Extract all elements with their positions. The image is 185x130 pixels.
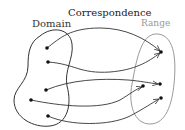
- diagram-canvas: [0, 0, 185, 130]
- range-points: [141, 50, 163, 100]
- range-set-outline: [131, 34, 175, 124]
- domain-point: [44, 88, 48, 92]
- range-point: [158, 82, 162, 86]
- domain-points: [29, 46, 50, 118]
- range-point: [159, 50, 163, 54]
- domain-point: [46, 114, 50, 118]
- arrow-d3-r2: [46, 79, 158, 90]
- domain-point: [46, 60, 50, 64]
- range-point: [141, 84, 145, 88]
- arrow-d2-r1: [48, 53, 160, 72]
- mapping-arrows: [31, 28, 160, 124]
- domain-set-outline: [14, 30, 72, 126]
- domain-point: [29, 98, 33, 102]
- correspondence-diagram: Correspondence Domain Range: [0, 0, 185, 130]
- arrow-d5-r4: [48, 99, 159, 124]
- range-point: [159, 96, 163, 100]
- domain-point: [45, 46, 49, 50]
